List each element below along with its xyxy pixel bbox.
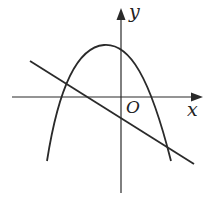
parabola-curve: [47, 45, 171, 161]
coordinate-diagram: y x O: [0, 0, 217, 211]
diagram-canvas: [0, 0, 217, 211]
origin-label: O: [126, 99, 140, 116]
y-axis-arrow-icon: [117, 8, 126, 20]
x-axis-label: x: [187, 100, 198, 119]
straight-line: [30, 61, 194, 164]
y-axis-label: y: [129, 2, 140, 21]
